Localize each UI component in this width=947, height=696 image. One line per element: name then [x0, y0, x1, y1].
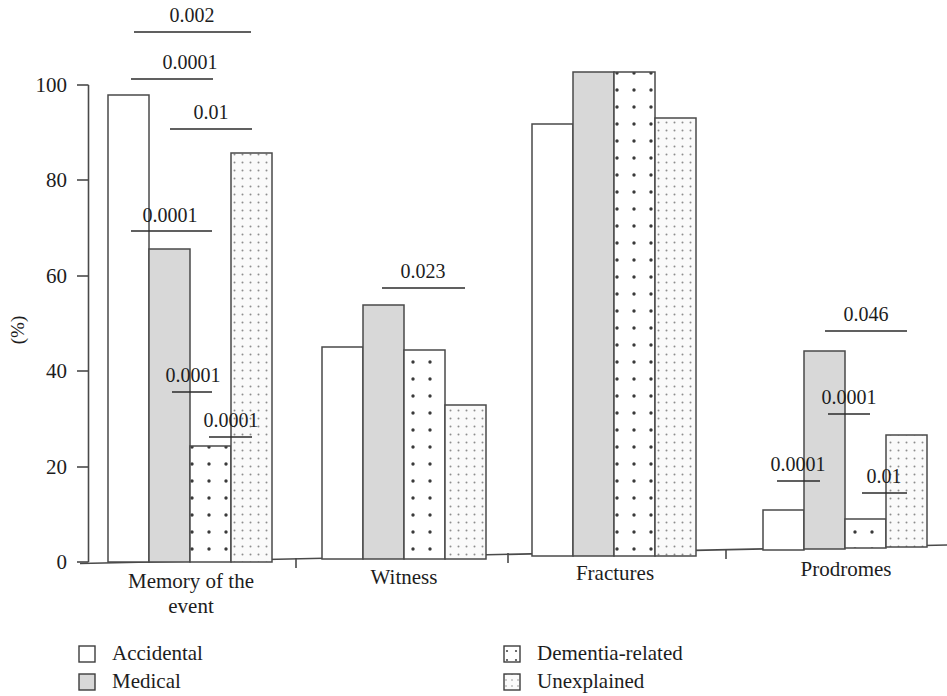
- pvalue-label-3: 0.01: [194, 101, 229, 123]
- bar-prodromes-dementia-related[interactable]: [845, 519, 886, 548]
- pvalue-label-7: 0.023: [401, 260, 446, 282]
- pvalue-label-6: 0.0001: [204, 409, 259, 431]
- legend-swatch-medical: [79, 674, 95, 690]
- cat-label-prodromes: Prodromes: [801, 557, 892, 581]
- pvalue-label-8: 0.046: [844, 303, 889, 325]
- pvalue-label-5: 0.0001: [166, 364, 221, 386]
- bar-prodromes-unexplained[interactable]: [886, 435, 927, 547]
- cat-label-fractures: Fractures: [576, 561, 654, 585]
- y-tick-label-20: 20: [46, 455, 67, 479]
- bar-witness-dementia-related[interactable]: [404, 350, 445, 559]
- bar-memory-accidental[interactable]: [108, 95, 149, 562]
- bar-fractures-unexplained[interactable]: [655, 118, 696, 556]
- legend: Accidental Medical Dementia-related Unex…: [79, 641, 683, 693]
- pvalue-label-9: 0.0001: [822, 386, 877, 408]
- legend-label-unexplained: Unexplained: [537, 669, 645, 693]
- bar-prodromes-medical[interactable]: [804, 351, 845, 549]
- bar-group-memory-of-the-event: [108, 95, 272, 562]
- bar-group-prodromes: [763, 351, 927, 550]
- y-tick-label-100: 100: [36, 73, 68, 97]
- legend-label-accidental: Accidental: [112, 641, 203, 665]
- y-axis-title: (%): [7, 316, 29, 344]
- bar-memory-dementia-related[interactable]: [190, 446, 231, 562]
- cat-label-witness: Witness: [371, 565, 438, 589]
- bar-group-witness: [322, 305, 486, 559]
- pvalue-label-1: 0.002: [170, 4, 215, 26]
- x-axis-category-labels: Memory of the event Witness Fractures Pr…: [128, 557, 891, 618]
- pvalue-label-4: 0.0001: [143, 204, 198, 226]
- bar-fractures-medical[interactable]: [573, 72, 614, 556]
- bar-witness-accidental[interactable]: [322, 347, 363, 559]
- legend-swatch-unexplained: [504, 674, 520, 690]
- bar-witness-unexplained[interactable]: [445, 405, 486, 559]
- bar-fractures-dementia-related[interactable]: [614, 72, 655, 556]
- bar-fractures-accidental[interactable]: [532, 124, 573, 556]
- cat-label-memory-line2: event: [168, 594, 214, 618]
- legend-label-medical: Medical: [112, 669, 181, 693]
- pvalue-label-10: 0.0001: [771, 453, 826, 475]
- pvalue-label-11: 0.01: [867, 465, 902, 487]
- y-tick-label-40: 40: [46, 359, 67, 383]
- figure-container: 100 80 60 40 20 0 (%): [0, 0, 947, 696]
- bar-memory-unexplained[interactable]: [231, 153, 272, 562]
- bar-memory-medical[interactable]: [149, 249, 190, 562]
- bar-group-fractures: [532, 72, 696, 556]
- pvalue-label-2: 0.0001: [163, 51, 218, 73]
- cat-label-memory-line1: Memory of the: [128, 569, 254, 593]
- legend-label-dementia-related: Dementia-related: [537, 641, 683, 665]
- bar-prodromes-accidental[interactable]: [763, 510, 804, 550]
- bar-witness-medical[interactable]: [363, 305, 404, 559]
- y-tick-label-0: 0: [57, 550, 68, 574]
- y-axis: 100 80 60 40 20 0 (%): [7, 73, 89, 574]
- legend-swatch-dementia-related: [504, 646, 520, 662]
- bar-chart: 100 80 60 40 20 0 (%): [0, 0, 947, 696]
- legend-swatch-accidental: [79, 646, 95, 662]
- y-tick-label-60: 60: [46, 264, 67, 288]
- y-tick-label-80: 80: [46, 168, 67, 192]
